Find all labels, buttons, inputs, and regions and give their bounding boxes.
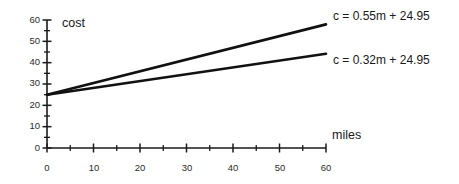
y-axis-title: cost [62,17,85,30]
x-tick-label-40: 40 [221,163,245,173]
y-tick-label-20: 20 [18,100,40,110]
y-tick-label-60: 60 [18,15,40,25]
cost-vs-miles-chart: 60 50 40 30 20 10 0 0 10 20 30 40 50 60 … [0,0,459,184]
y-tick-label-0: 0 [18,143,40,153]
y-tick-label-40: 40 [18,57,40,67]
series-label-upper: c = 0.55m + 24.95 [333,10,430,22]
y-tick-label-30: 30 [18,78,40,88]
x-tick-label-30: 30 [175,163,199,173]
series-label-lower: c = 0.32m + 24.95 [333,54,430,66]
x-tick-label-20: 20 [128,163,152,173]
x-tick-label-10: 10 [82,163,106,173]
x-tick-label-50: 50 [268,163,292,173]
x-tick-label-0: 0 [35,163,59,173]
data-series-group [47,24,326,94]
x-tick-label-60: 60 [314,163,338,173]
x-axis-title: miles [332,129,361,142]
y-tick-label-10: 10 [18,121,40,131]
y-tick-label-50: 50 [18,36,40,46]
